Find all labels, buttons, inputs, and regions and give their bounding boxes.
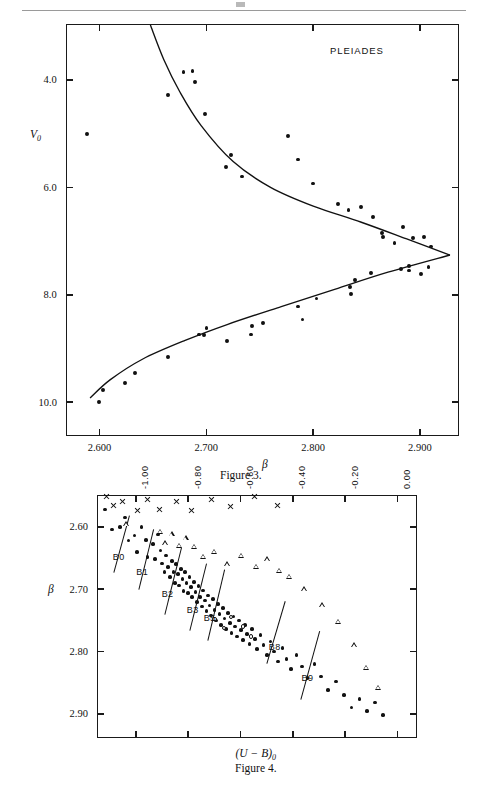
x-tick-label: -0.40	[297, 465, 307, 489]
x-tick-bottom	[240, 731, 242, 738]
data-point-filled	[381, 713, 385, 717]
y-tick-right	[452, 187, 459, 189]
spectral-type-label-B0: B0	[113, 552, 125, 562]
data-point-filled	[342, 693, 346, 697]
data-point	[229, 153, 233, 157]
data-point-filled	[182, 589, 186, 593]
x-tick-top	[135, 495, 137, 502]
x-tick-label: -0.80	[193, 465, 203, 489]
y-tick-label: 2.60	[70, 521, 88, 532]
x-tick-top	[99, 24, 101, 31]
y-tick	[66, 401, 73, 403]
data-point	[359, 205, 363, 209]
data-point-filled	[198, 595, 202, 599]
x-tick-bottom	[292, 731, 294, 738]
x-tick-label: 2.700	[194, 442, 218, 453]
data-point-cross	[227, 503, 234, 510]
data-point-filled	[276, 660, 280, 664]
figure-3-lower-branch	[90, 255, 450, 398]
y-tick-label: 10.0	[39, 397, 57, 408]
figure-3-y-axis-label: V0	[30, 128, 41, 143]
y-tick-right	[410, 713, 417, 715]
data-point-filled	[110, 528, 114, 532]
data-point-filled	[144, 538, 148, 542]
data-point-cross	[173, 498, 180, 505]
data-point-filled	[183, 570, 187, 574]
data-point-filled	[172, 570, 176, 574]
data-point-filled	[140, 525, 144, 529]
data-point-filled	[221, 606, 225, 610]
data-point-filled	[226, 611, 230, 615]
data-point-filled	[300, 665, 304, 669]
data-point-cross	[144, 496, 151, 503]
data-point	[240, 175, 244, 179]
y-tick	[97, 713, 104, 715]
data-point-triangle	[211, 549, 217, 554]
data-point-filled	[265, 653, 269, 657]
figure-4-x-axis-label: (U − B)0	[236, 747, 277, 762]
data-point	[166, 93, 170, 97]
data-point-filled	[188, 575, 192, 579]
y-tick-label: 8.0	[44, 289, 57, 300]
data-point-filled	[173, 581, 177, 585]
data-point-filled	[213, 608, 217, 612]
y-tick	[66, 79, 73, 81]
data-point-cross	[156, 506, 163, 513]
y-tick-right	[452, 294, 459, 296]
data-point-cross	[188, 507, 195, 514]
data-point-cross	[251, 493, 258, 500]
x-tick-top	[344, 495, 346, 502]
data-point-triangle	[286, 574, 292, 579]
figure-4-caption: Figure 4.	[235, 762, 277, 774]
spectral-type-label-B2: B2	[162, 589, 174, 599]
x-tick-label: 2.800	[301, 442, 325, 453]
data-point	[336, 202, 340, 206]
data-point-filled	[118, 525, 122, 529]
data-point-open	[241, 624, 245, 628]
figure-4-y-axis-label: β	[48, 583, 54, 595]
data-point-triangle	[335, 619, 341, 624]
x-tick-top	[240, 495, 242, 502]
data-point-triangle	[157, 529, 163, 534]
data-point-filled	[228, 621, 232, 625]
figure-3-caption: Figure 3.	[220, 469, 262, 481]
data-point	[422, 235, 426, 239]
data-point-filled	[253, 637, 257, 641]
x-tick-label: -0.20	[350, 465, 360, 489]
x-tick-bottom	[135, 731, 137, 738]
x-tick	[206, 429, 208, 436]
data-point-triangle	[123, 521, 129, 526]
y-tick	[66, 187, 73, 189]
data-point-filled	[170, 559, 174, 563]
x-tick-top	[397, 495, 399, 502]
x-tick-label: -0.60	[245, 465, 255, 489]
x-tick-bottom	[397, 731, 399, 738]
x-tick-top	[206, 24, 208, 31]
data-point-filled	[168, 575, 172, 579]
data-point-cross	[110, 502, 117, 509]
data-point-filled	[203, 599, 207, 603]
figure-4-plot-frame	[97, 495, 417, 738]
data-point-triangle	[264, 556, 270, 561]
data-point	[261, 321, 265, 325]
data-point-triangle	[169, 531, 175, 536]
data-point	[381, 235, 385, 239]
data-point-filled	[250, 627, 254, 631]
data-point-triangle	[191, 544, 197, 549]
data-point	[369, 271, 373, 275]
data-point-filled	[163, 570, 167, 574]
data-point-cross	[134, 507, 141, 514]
data-point-filled	[334, 680, 338, 684]
data-point	[348, 285, 352, 289]
y-tick-label: 2.70	[70, 584, 88, 595]
data-point-filled	[216, 602, 220, 606]
figure-3-annotation: PLEIADES	[330, 45, 384, 56]
data-point-filled	[177, 584, 181, 588]
data-point-triangle	[253, 564, 259, 569]
data-point	[225, 339, 229, 343]
x-tick-label: -1.00	[140, 465, 150, 489]
spectral-type-label-B5: B5	[204, 613, 216, 623]
data-point-triangle	[238, 553, 244, 558]
y-tick-label: 4.0	[44, 74, 57, 85]
data-point-filled	[190, 595, 194, 599]
